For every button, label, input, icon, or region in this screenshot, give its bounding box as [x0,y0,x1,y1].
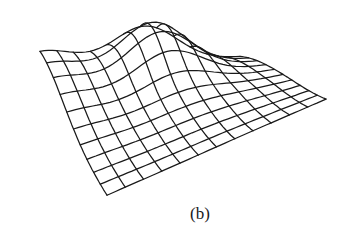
mesh-grid-lines [40,22,326,195]
wireframe-surface-figure: (b) [0,0,346,243]
figure-caption: (b) [0,204,346,224]
mesh-row-line [53,31,257,77]
mesh-column-line [40,51,107,195]
mesh-column-line [173,34,253,131]
mesh-row-line [94,91,309,173]
mesh-column-line [240,56,326,99]
mesh-row-line [87,85,300,159]
